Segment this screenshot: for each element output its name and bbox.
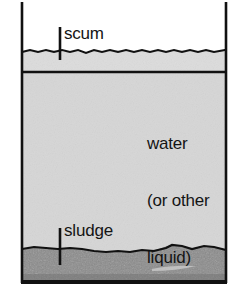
scum-label: scum	[64, 25, 104, 42]
water-label: water (or other liquid)	[147, 96, 209, 301]
scum-layer-fill	[23, 50, 225, 72]
water-label-line-3: liquid)	[147, 248, 209, 267]
sludge-label: sludge	[64, 222, 113, 239]
water-label-line-1: water	[147, 134, 209, 153]
tank-cross-section-diagram: scum sludge water (or other liquid)	[0, 0, 242, 301]
water-label-line-2: (or other	[147, 191, 209, 210]
